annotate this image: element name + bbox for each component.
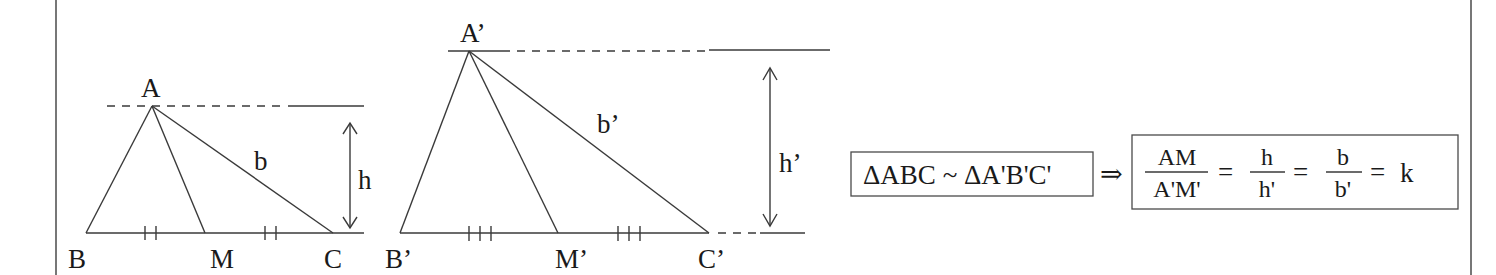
ratio-constant-k: k <box>1400 158 1414 188</box>
vertex-label-m: M <box>210 244 234 274</box>
numerator-b: b <box>1337 144 1349 170</box>
similarity-text: ΔABC ~ ΔA'B'C' <box>863 160 1051 190</box>
denominator-h-prime: h' <box>1259 176 1275 202</box>
triangle-a-prime-b-prime-c-prime: A’ B’ M’ C’ b’ h’ <box>385 18 830 274</box>
numerator-h: h <box>1261 144 1273 170</box>
vertex-label-c: C <box>324 244 342 274</box>
fraction-h-over-h-prime: h h' <box>1250 144 1285 202</box>
height-arrow-h-prime <box>763 68 777 226</box>
denominator-a-prime-m-prime: A'M' <box>1153 176 1200 202</box>
implies-arrow: ⇒ <box>1100 159 1123 189</box>
vertex-label-b: B <box>68 244 86 274</box>
similar-triangles-diagram: A B M C b h <box>0 0 1496 275</box>
vertex-label-a-prime: A’ <box>460 18 486 48</box>
height-label-h: h <box>358 165 372 195</box>
fraction-b-over-b-prime: b b' <box>1326 144 1362 202</box>
vertex-label-b-prime: B’ <box>385 244 412 274</box>
vertex-label-m-prime: M’ <box>555 244 588 274</box>
median-a-prime-m-prime <box>469 51 558 233</box>
height-label-h-prime: h’ <box>779 148 802 178</box>
denominator-b-prime: b' <box>1335 176 1351 202</box>
ratio-statement: AM A'M' = h h' = b b' = k <box>1132 135 1458 209</box>
similarity-statement: ΔABC ~ ΔA'B'C' ⇒ <box>851 152 1123 196</box>
side-a-prime-c-prime <box>469 51 709 233</box>
equals-sign-3: = <box>1370 157 1385 187</box>
vertex-label-a: A <box>141 73 161 103</box>
fraction-am-over-a-prime-m-prime: AM A'M' <box>1145 144 1208 202</box>
side-label-b-prime: b’ <box>597 109 620 139</box>
equals-sign-1: = <box>1218 157 1233 187</box>
equals-sign-2: = <box>1293 157 1308 187</box>
triangle-abc: A B M C b h <box>68 73 372 274</box>
side-a-prime-b-prime <box>400 51 469 233</box>
vertex-label-c-prime: C’ <box>698 244 725 274</box>
height-arrow-h <box>343 123 357 228</box>
side-label-b: b <box>254 146 268 176</box>
numerator-am: AM <box>1158 144 1197 170</box>
side-ab <box>86 106 152 233</box>
